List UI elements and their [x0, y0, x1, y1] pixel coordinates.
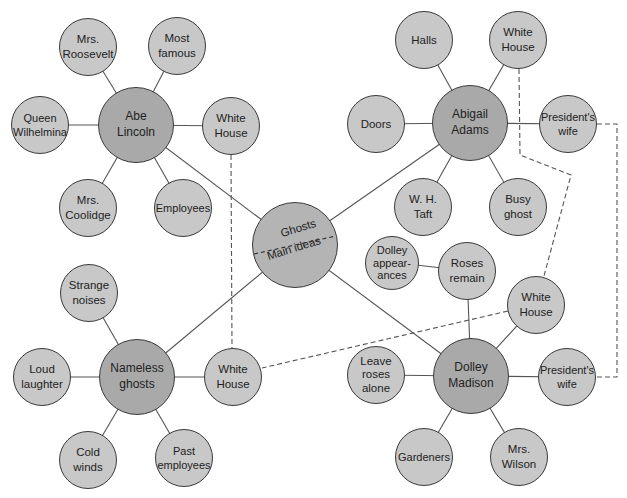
leaf-busy-ghost: Busy ghost — [489, 178, 547, 236]
leaf-dolley-appearances: Dolley appear- ances — [365, 236, 419, 290]
hub-abe-lincoln: Abe Lincoln — [98, 87, 174, 163]
leaf-white-house-nameless: White House — [204, 348, 262, 406]
leaf-wh-taft: W. H. Taft — [394, 178, 452, 236]
leaf-gardeners: Gardeners — [395, 428, 453, 486]
leaf-cold-winds: Cold winds — [59, 431, 117, 489]
leaf-past-employees: Past employees — [155, 429, 213, 487]
leaf-strange-noises: Strange noises — [60, 264, 118, 322]
leaf-mrs-wilson: Mrs. Wilson — [490, 428, 548, 486]
leaf-halls: Halls — [395, 11, 453, 69]
leaf-mrs-coolidge: Mrs. Coolidge — [59, 179, 117, 237]
leaf-white-house-abigail: White House — [489, 11, 547, 69]
leaf-white-house-dolley: White House — [507, 276, 565, 334]
hub-nameless-ghosts: Nameless ghosts — [99, 339, 175, 415]
leaf-loud-laughter: Loud laughter — [13, 348, 71, 406]
leaf-presidents-wife-abigail: President's wife — [539, 95, 597, 153]
leaf-doors: Doors — [347, 95, 405, 153]
leaf-presidents-wife-dolley: President's wife — [538, 348, 596, 406]
leaf-white-house-abe: White House — [202, 97, 260, 155]
leaf-mrs-roosevelt: Mrs. Roosevelt — [59, 18, 117, 76]
hub-dolley-madison: Dolley Madison — [433, 338, 509, 414]
leaf-leave-roses-alone: Leave roses alone — [347, 346, 405, 404]
leaf-employees: Employees — [154, 179, 212, 237]
hub-abigail-adams: Abigail Adams — [432, 85, 508, 161]
leaf-queen-wilhelmina: Queen Wilhelmina — [11, 96, 69, 154]
leaf-roses-remain: Roses remain — [438, 242, 496, 300]
leaf-most-famous: Most famous — [148, 17, 206, 75]
